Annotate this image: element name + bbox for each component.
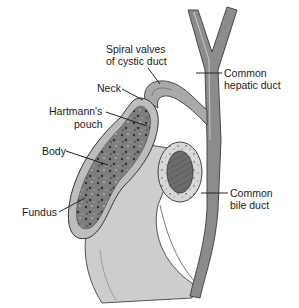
label-common-hepatic-line2: hepatic duct: [224, 79, 281, 91]
label-fundus: Fundus: [22, 206, 57, 218]
leader-spiral-valves: [148, 68, 160, 84]
label-common-hepatic-line1: Common: [224, 67, 267, 79]
label-hartmann-line1: Hartmann's: [49, 105, 102, 117]
label-common-bile-line1: Common: [230, 187, 273, 199]
label-neck: Neck: [97, 82, 122, 94]
label-common-bile-line2: bile duct: [230, 199, 269, 211]
label-hartmann-line2: pouch: [74, 118, 103, 130]
duodenum-cross-section: [158, 142, 202, 202]
label-spiral-valves-line1: Spiral valves: [106, 43, 166, 55]
leader-neck: [122, 89, 143, 100]
label-body: Body: [42, 145, 67, 157]
gallbladder-diagram: Spiral valves of cystic duct Neck Hartma…: [0, 0, 299, 308]
label-spiral-valves-line2: of cystic duct: [106, 55, 167, 67]
